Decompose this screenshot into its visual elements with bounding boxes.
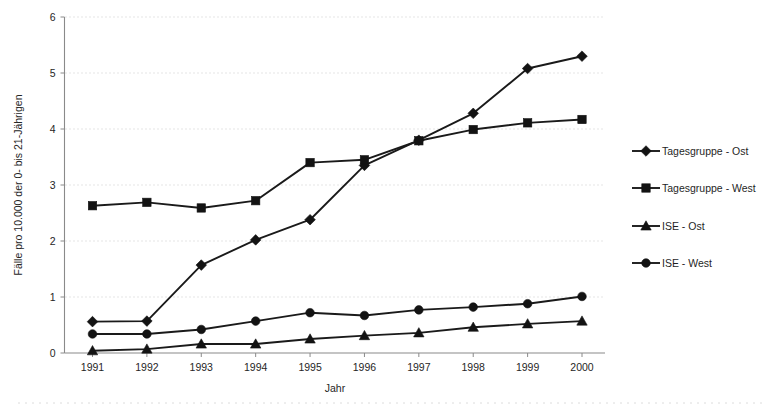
series-1 (87, 51, 587, 327)
data-point-square (306, 158, 314, 166)
x-tick-label: 1999 (516, 361, 540, 373)
data-point-circle (360, 311, 369, 320)
data-point-circle (306, 308, 315, 317)
x-tick-label: 1997 (407, 361, 431, 373)
data-point-diamond (87, 316, 98, 327)
chart-legend: Tagesgruppe - OstTagesgruppe - WestISE -… (632, 145, 756, 269)
y-tick-label: 6 (50, 11, 56, 23)
x-tick-label: 1991 (81, 361, 105, 373)
x-tick-label: 1996 (353, 361, 377, 373)
data-point-square (578, 115, 586, 123)
legend-label: Tagesgruppe - Ost (662, 145, 748, 157)
line-chart: 0123456 19911992199319941995199619971998… (0, 0, 777, 405)
data-point-square (523, 119, 531, 127)
x-tick-label: 1992 (135, 361, 159, 373)
series-2 (88, 115, 586, 212)
gridlines (66, 17, 606, 297)
series-3 (87, 316, 587, 355)
data-point-diamond (577, 51, 588, 62)
x-tick-label: 1994 (244, 361, 268, 373)
data-point-square (88, 202, 96, 210)
data-point-square (143, 198, 151, 206)
data-point-circle (197, 325, 206, 334)
data-point-circle (469, 303, 478, 312)
legend-item-1[interactable]: Tagesgruppe - Ost (632, 145, 748, 157)
data-point-circle (88, 330, 97, 339)
x-tick-label: 1998 (462, 361, 486, 373)
data-point-square (469, 125, 477, 133)
y-tick-label: 5 (50, 67, 56, 79)
legend-marker-square (642, 184, 650, 192)
y-tick-label: 0 (50, 347, 56, 359)
x-tick-label: 1993 (190, 361, 214, 373)
legend-marker-diamond (641, 146, 652, 157)
series-4 (88, 292, 586, 338)
data-point-square (251, 196, 259, 204)
y-tick-labels: 0123456 (50, 11, 56, 359)
y-tick-label: 1 (50, 291, 56, 303)
legend-marker-circle (642, 259, 651, 268)
x-tick-labels: 1991199219931994199519961997199819992000 (81, 361, 594, 373)
data-point-diamond (250, 235, 261, 246)
legend-item-2[interactable]: Tagesgruppe - West (632, 182, 756, 194)
y-axis-title: Fälle pro 10.000 der 0- bis 21-Jährigen (12, 94, 24, 275)
y-tick-label: 4 (50, 123, 56, 135)
legend-label: ISE - Ost (662, 220, 705, 232)
data-series (87, 51, 587, 355)
y-tick-label: 2 (50, 235, 56, 247)
legend-label: ISE - West (662, 257, 712, 269)
legend-item-4[interactable]: ISE - West (632, 257, 712, 269)
data-point-circle (523, 299, 532, 308)
series-line (93, 321, 583, 351)
x-tick-label: 1995 (298, 361, 322, 373)
data-point-circle (415, 306, 424, 315)
data-point-circle (251, 317, 260, 326)
y-tick-label: 3 (50, 179, 56, 191)
chart-figure: 0123456 19911992199319941995199619971998… (0, 0, 777, 405)
data-point-circle (143, 330, 152, 339)
data-point-square (360, 156, 368, 164)
x-axis-title: Jahr (325, 382, 346, 394)
series-line (93, 119, 583, 207)
legend-label: Tagesgruppe - West (662, 182, 756, 194)
series-line (93, 56, 583, 321)
data-point-square (415, 137, 423, 145)
data-point-square (197, 204, 205, 212)
legend-item-3[interactable]: ISE - Ost (632, 220, 705, 232)
x-tick-label: 2000 (570, 361, 594, 373)
data-point-circle (578, 292, 587, 301)
